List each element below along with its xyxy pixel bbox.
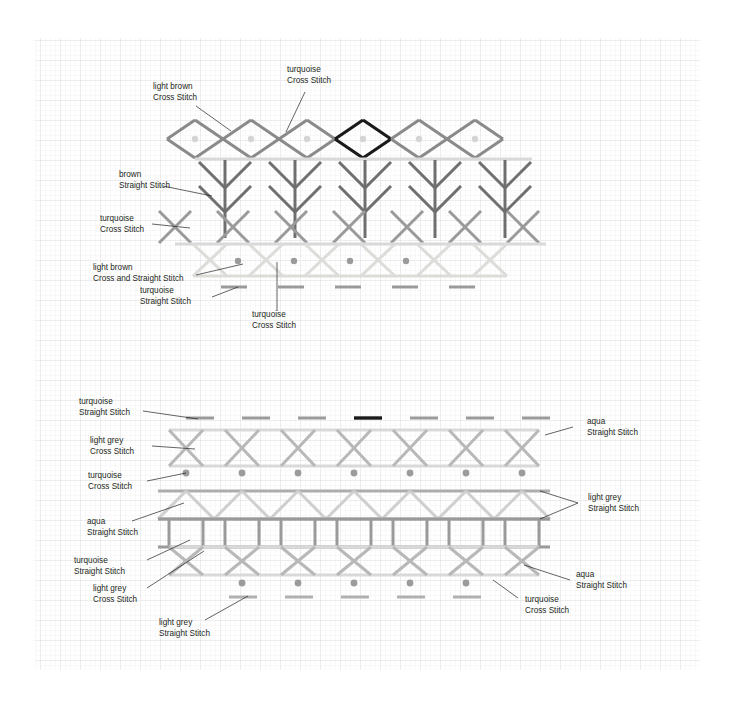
annotation-line-2: Cross and Straight Stitch (93, 274, 184, 283)
annotation-line-1: light grey (588, 493, 622, 502)
cross-stitch-dot (351, 470, 358, 477)
annotation-line-2: Straight Stitch (140, 297, 191, 306)
diamond-center-dot (304, 136, 310, 142)
cross-stitch-dot (351, 580, 358, 587)
annotation-line-1: turquoise (74, 556, 108, 565)
cross-stitch-dot (295, 470, 302, 477)
cross-stitch-dot (295, 580, 302, 587)
annotation-line-1: aqua (587, 417, 606, 426)
cross-stitch-dot (403, 258, 409, 264)
diamond-center-dot (192, 136, 198, 142)
stitch-chart-svg: light brown Cross Stitch turquoise Cross… (0, 0, 736, 707)
cross-stitch-dot (235, 258, 241, 264)
annotation-line-2: Cross Stitch (93, 595, 138, 604)
annotation-line-1: brown (119, 170, 142, 179)
annotation-line-2: Straight Stitch (576, 581, 627, 590)
annotation-line-2: Cross Stitch (90, 447, 135, 456)
annotation-line-2: Straight Stitch (79, 408, 130, 417)
diamond-center-dot (248, 136, 254, 142)
annotation-line-2: Cross Stitch (252, 321, 297, 330)
cross-stitch-dot (407, 470, 414, 477)
annotation-line-2: Straight Stitch (587, 428, 638, 437)
annotation-line-1: light grey (93, 584, 127, 593)
annotation-line-1: turquoise (525, 595, 559, 604)
annotation-line-1: turquoise (287, 65, 321, 74)
annotation-line-1: light brown (153, 82, 193, 91)
annotation-line-2: Cross Stitch (287, 76, 332, 85)
annotation-line-2: Straight Stitch (119, 181, 170, 190)
cross-stitch-dot (407, 580, 414, 587)
annotation-line-1: light grey (159, 618, 193, 627)
annotation-line-2: Straight Stitch (588, 504, 639, 513)
annotation-line-1: turquoise (100, 214, 134, 223)
diamond-center-dot (360, 136, 366, 142)
cross-stitch-dot (239, 470, 246, 477)
cross-stitch-dot (239, 580, 246, 587)
annotation-line-2: Straight Stitch (159, 629, 210, 638)
cross-stitch-dot (519, 470, 526, 477)
cross-stitch-dot (291, 258, 297, 264)
cross-stitch-dot (463, 470, 470, 477)
annotation-line-2: Straight Stitch (87, 528, 138, 537)
annotation-line-2: Straight Stitch (74, 567, 125, 576)
annotation-line-1: aqua (576, 570, 595, 579)
diamond-center-dot (416, 136, 422, 142)
diagram-canvas: light brown Cross Stitch turquoise Cross… (0, 0, 736, 707)
annotation-line-2: Cross Stitch (525, 606, 570, 615)
annotation-line-1: light grey (90, 436, 124, 445)
diamond-center-dot (472, 136, 478, 142)
cross-stitch-dot (463, 580, 470, 587)
annotation-line-1: turquoise (88, 471, 122, 480)
annotation-line-1: turquoise (79, 397, 113, 406)
annotation-line-2: Cross Stitch (100, 225, 145, 234)
annotation-line-1: aqua (87, 517, 106, 526)
annotation-line-2: Cross Stitch (88, 482, 133, 491)
annotation-line-1: turquoise (252, 310, 286, 319)
annotation-line-1: light brown (93, 263, 133, 272)
annotation-line-2: Cross Stitch (153, 93, 198, 102)
cross-stitch-dot (347, 258, 353, 264)
annotation-line-1: turquoise (140, 286, 174, 295)
